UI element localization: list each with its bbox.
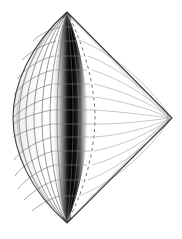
figure-container: [0, 0, 182, 239]
spindle-torus-diagram: [0, 0, 182, 239]
